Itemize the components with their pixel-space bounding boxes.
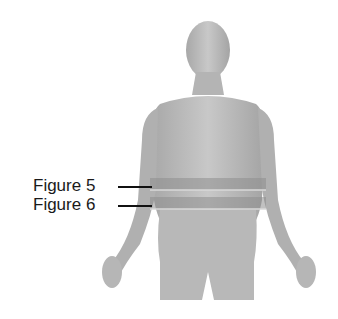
figure-6-leader-line	[118, 205, 152, 207]
left-arm	[108, 108, 159, 280]
figure-6-label: Figure 6	[33, 196, 95, 213]
head	[186, 21, 230, 79]
neck	[192, 72, 224, 95]
figure-6-band	[150, 197, 266, 209]
right-arm	[258, 108, 310, 280]
body-figure	[0, 0, 338, 319]
anatomy-diagram: Figure 5 Figure 6	[0, 0, 338, 319]
right-hand	[296, 256, 316, 288]
figure-5-label: Figure 5	[33, 177, 95, 194]
left-hand	[102, 256, 122, 288]
pelvis	[158, 210, 257, 300]
figure-5-band	[150, 178, 266, 190]
figure-5-leader-line	[118, 186, 152, 188]
